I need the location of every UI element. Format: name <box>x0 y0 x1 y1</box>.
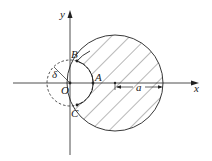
point-c <box>76 104 79 107</box>
point-a <box>92 82 95 85</box>
label-c: C <box>71 107 79 119</box>
label-radius-a: a <box>136 81 142 93</box>
y-axis-label: y <box>59 8 65 20</box>
point-b <box>76 60 79 63</box>
label-b: B <box>71 48 78 60</box>
label-delta: δ <box>52 68 58 80</box>
diagram: y x O A B C δ a <box>0 0 212 161</box>
x-axis-label: x <box>193 82 199 94</box>
y-axis-arrow-icon <box>68 10 73 18</box>
label-o: O <box>61 84 69 96</box>
point-o <box>69 82 72 85</box>
label-a: A <box>94 71 102 83</box>
